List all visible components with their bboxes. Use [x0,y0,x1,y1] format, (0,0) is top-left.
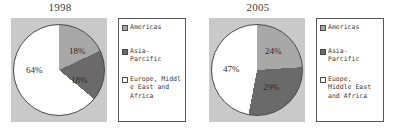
slice-label-americas-2005: 24% [265,46,282,56]
slice-label-americas-1998: 18% [69,46,86,56]
chart-title-2005: 2005 [198,1,318,13]
legend-swatch-americas-icon [122,25,128,31]
legend-label-asia-pacific: Asia- Parcific [328,47,359,64]
legend-item-americas-1998[interactable]: Americas [122,23,182,32]
slice-label-asia-pacific-1998: 18% [71,75,88,85]
legend-2005: Americas Asia- Parcific Euope, Middle Ea… [316,18,384,122]
chart-panel-1998: 1998 18% 18% 64% Americas Asia- Parcific [0,0,198,131]
legend-label-americas: Americas [328,23,359,32]
legend-label-asia-pacific: Asia- Parcific [130,47,161,64]
legend-1998: Americas Asia- Parcific Europe, Middl e … [118,18,186,122]
legend-label-europe: Europe, Middl e East and Africa [130,75,181,101]
legend-swatch-asia-pacific-icon [122,49,128,55]
legend-swatch-europe-icon [122,77,128,83]
legend-item-asia-pacific-1998[interactable]: Asia- Parcific [122,47,182,64]
legend-swatch-europe-icon [320,77,326,83]
legend-label-americas: Americas [130,23,161,32]
legend-item-asia-pacific-2005[interactable]: Asia- Parcific [320,47,380,64]
legend-item-europe-2005[interactable]: Euope, Middle East and Africa [320,75,380,101]
slice-label-europe-2005: 47% [223,64,240,74]
slice-label-europe-1998: 64% [26,65,43,75]
legend-item-americas-2005[interactable]: Americas [320,23,380,32]
plot-area-1998: 18% 18% 64% [11,18,107,122]
chart-title-1998: 1998 [0,1,120,13]
pie-chart-figure: 1998 18% 18% 64% Americas Asia- Parcific [0,0,396,131]
legend-swatch-americas-icon [320,25,326,31]
legend-label-europe: Euope, Middle East and Africa [328,75,371,101]
chart-panel-2005: 2005 24% 29% 47% Americas Asia- Parcific [198,0,396,131]
legend-swatch-asia-pacific-icon [320,49,326,55]
plot-area-2005: 24% 29% 47% [209,18,305,122]
slice-label-asia-pacific-2005: 29% [263,82,280,92]
legend-item-europe-1998[interactable]: Europe, Middl e East and Africa [122,75,182,101]
